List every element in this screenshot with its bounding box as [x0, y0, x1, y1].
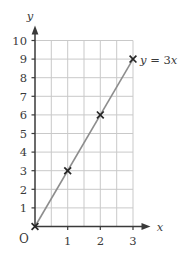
x-tick-label-3: 3 — [129, 234, 136, 248]
equation-label: y = 3x — [139, 53, 178, 67]
y-axis-tick-labels: 10 9 8 7 6 5 4 3 2 1 — [12, 34, 27, 215]
y-tick-label-2: 2 — [20, 183, 27, 197]
y-tick-label-3: 3 — [20, 164, 27, 178]
origin-label: O — [19, 232, 29, 246]
y-tick-label-4: 4 — [20, 145, 27, 159]
x-tick-label-1: 1 — [64, 234, 71, 248]
x-axis-tick-labels: 1 2 3 — [64, 234, 137, 248]
y-tick-label-9: 9 — [20, 52, 27, 66]
y-tick-label-10: 10 — [12, 34, 27, 48]
y-tick-label-7: 7 — [20, 90, 27, 104]
equation-operator: = 3 — [147, 53, 171, 67]
x-axis-arrowhead — [142, 223, 151, 230]
graph-figure: 10 9 8 7 6 5 4 3 2 1 1 2 3 y x O — [0, 0, 184, 268]
equation-rhs: x — [171, 53, 178, 67]
y-axis-arrowhead — [32, 26, 39, 35]
y-axis-label: y — [26, 9, 34, 23]
coordinate-plane-svg: 10 9 8 7 6 5 4 3 2 1 1 2 3 y x O — [0, 0, 184, 268]
x-axis-label: x — [157, 220, 164, 234]
y-tick-label-8: 8 — [20, 71, 27, 85]
y-tick-label-1: 1 — [20, 201, 27, 215]
x-tick-label-2: 2 — [97, 234, 104, 248]
y-tick-label-5: 5 — [20, 127, 27, 141]
y-tick-label-6: 6 — [20, 108, 27, 122]
